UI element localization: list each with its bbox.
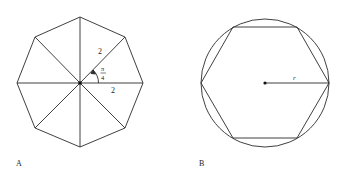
side-label-diagonal: 2 bbox=[98, 47, 102, 56]
circle-center-point bbox=[263, 81, 266, 84]
diagram-canvas: 2 2 π 4 A r B bbox=[0, 0, 344, 172]
angle-label-denominator: 4 bbox=[101, 74, 105, 81]
octagon-center-point bbox=[78, 81, 82, 85]
octagon-spoke bbox=[35, 37, 80, 83]
octagon-spoke bbox=[80, 83, 125, 128]
figure-a-label: A bbox=[16, 159, 22, 168]
angle-label-numerator: π bbox=[101, 65, 105, 72]
side-label-horizontal: 2 bbox=[111, 86, 115, 95]
figure-b-label: B bbox=[199, 159, 204, 168]
octagon-spoke bbox=[35, 83, 80, 128]
radius-label: r bbox=[293, 74, 296, 82]
